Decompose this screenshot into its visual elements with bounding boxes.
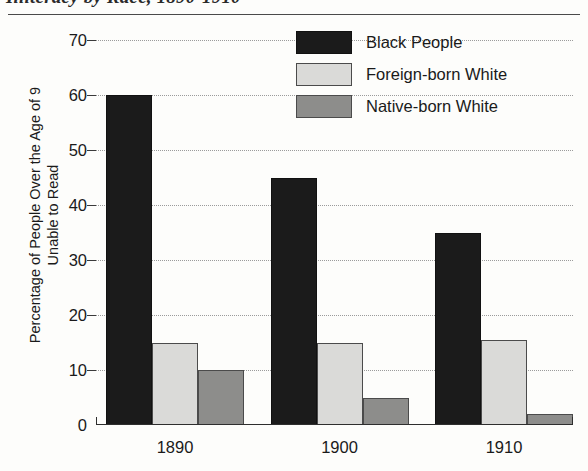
x-axis-tick-label: 1910 [486, 438, 523, 457]
y-axis-tick-mark [87, 205, 96, 206]
y-axis-tick-label: 10 [69, 362, 87, 379]
legend-item: Native-born White [296, 95, 507, 118]
x-axis-cap-left [96, 417, 97, 425]
bar [198, 370, 244, 425]
bar [435, 233, 481, 426]
legend-swatch [296, 95, 352, 118]
bar-group [106, 40, 244, 425]
x-axis-tick-label: 1900 [321, 438, 358, 457]
legend-label: Foreign-born White [366, 65, 507, 84]
y-axis-tick-mark [87, 260, 96, 261]
y-axis-tick-label: 60 [69, 87, 87, 104]
x-axis-line [96, 424, 573, 425]
y-axis-label: Percentage of People Over the Age of 9 U… [26, 20, 62, 410]
legend-label: Native-born White [366, 97, 498, 116]
y-axis-tick-mark [87, 370, 96, 371]
legend-swatch [296, 31, 352, 54]
header-divider [8, 14, 580, 15]
y-axis-tick-label: 40 [69, 197, 87, 214]
y-axis-tick-label: 70 [69, 32, 87, 49]
bar [363, 398, 409, 426]
y-axis-tick-mark [87, 150, 96, 151]
y-axis-tick-mark [87, 95, 96, 96]
y-axis-tick-label: 0 [78, 417, 87, 434]
bar [106, 95, 152, 425]
chart-title: Illiteracy by Race, 1890-1910 [0, 0, 588, 8]
bar [481, 340, 527, 425]
legend-swatch [296, 63, 352, 86]
y-axis-tick-label: 20 [69, 307, 87, 324]
legend-item: Foreign-born White [296, 63, 507, 86]
x-axis-tick-label: 1890 [157, 438, 194, 457]
legend-item: Black People [296, 31, 507, 54]
y-axis-tick-mark [87, 315, 96, 316]
chart-legend: Black PeopleForeign-born WhiteNative-bor… [296, 31, 507, 118]
y-axis-tick-label: 50 [69, 142, 87, 159]
bar [317, 343, 363, 426]
y-axis-tick-mark [87, 40, 96, 41]
legend-label: Black People [366, 33, 462, 52]
y-axis-label-line-1: Percentage of People Over the Age of 9 [26, 20, 44, 410]
bar [271, 178, 317, 426]
chart-title-clipped: Illiteracy by Race, 1890-1910 [0, 0, 588, 8]
y-axis-label-line-2: Unable to Read [44, 20, 62, 410]
chart-figure: Illiteracy by Race, 1890-1910 Percentage… [0, 0, 588, 471]
x-axis-cap-right [572, 417, 573, 425]
bar [152, 343, 198, 426]
y-axis-tick-label: 30 [69, 252, 87, 269]
